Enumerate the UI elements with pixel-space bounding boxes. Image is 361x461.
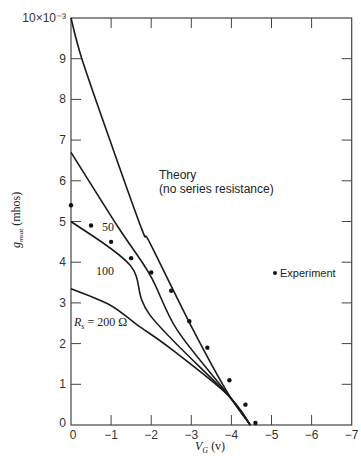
y-tick-label: 6 — [59, 174, 66, 188]
experiment-point — [69, 203, 73, 207]
y-tick-label: 9 — [59, 52, 66, 66]
theory-label: Theory — [159, 168, 196, 182]
series-line — [71, 289, 250, 425]
x-axis-label: VG (v) — [195, 439, 225, 455]
x-tick-label: −5 — [265, 428, 279, 442]
y-tick-label: 10×10⁻³ — [22, 11, 66, 25]
x-tick-label: −2 — [144, 428, 158, 442]
experiment-point — [149, 270, 153, 274]
y-axis-label: gmsat (mhos) — [9, 192, 25, 248]
y-tick-label: 0 — [59, 416, 66, 430]
series-line — [71, 18, 250, 425]
axis-ticks: 0−1−2−3−4−5−6−7012345678910×10⁻³ — [22, 11, 359, 442]
y-tick-label: 1 — [59, 377, 66, 391]
legend-experiment-label: Experiment — [280, 267, 336, 279]
experiment-point — [205, 345, 209, 349]
experiment-point — [169, 288, 173, 292]
experiment-point — [109, 240, 113, 244]
experiment-point — [253, 421, 257, 425]
gm-vs-vg-chart: 0−1−2−3−4−5−6−7012345678910×10⁻³ Theory … — [0, 0, 361, 461]
y-tick-label: 5 — [59, 215, 66, 229]
experiment-point — [89, 223, 93, 227]
y-tick-label: 3 — [59, 296, 66, 310]
theory-sublabel: (no series resistance) — [159, 182, 274, 196]
y-tick-label: 7 — [59, 133, 66, 147]
y-tick-label: 2 — [59, 337, 66, 351]
x-tick-label: −4 — [225, 428, 239, 442]
experiment-point — [243, 402, 247, 406]
data-series — [71, 18, 250, 425]
experiment-point — [187, 319, 191, 323]
x-tick-label: −6 — [305, 428, 319, 442]
legend-experiment-marker — [273, 271, 277, 275]
experiment-point — [129, 256, 133, 260]
x-tick-label: −7 — [345, 428, 359, 442]
experiment-point — [227, 378, 231, 382]
r100-label: 100 — [96, 264, 114, 278]
y-tick-label: 8 — [59, 92, 66, 106]
x-tick-label: 0 — [70, 428, 77, 442]
x-tick-label: −1 — [104, 428, 118, 442]
r200-label: Rs = 200 Ω — [73, 315, 127, 331]
y-tick-label: 4 — [59, 255, 66, 269]
r50-label: 50 — [102, 220, 114, 234]
